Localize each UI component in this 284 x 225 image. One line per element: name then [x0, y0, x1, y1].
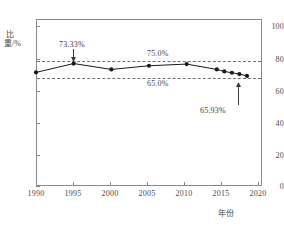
- data-point: [109, 67, 113, 71]
- data-point: [215, 67, 219, 71]
- annotation-last-label: 65.93%: [200, 107, 226, 115]
- data-point: [147, 64, 151, 68]
- annotation-peak-label: 73.33%: [59, 41, 85, 49]
- line-chart: 比重/% 100 80 60 40 20 0 1990 1995 2000 20…: [0, 0, 284, 225]
- annotation-peak-arrow-icon: [69, 49, 78, 63]
- data-point: [185, 62, 189, 66]
- data-series: [0, 0, 284, 225]
- data-point: [222, 69, 226, 73]
- data-point: [230, 71, 234, 75]
- series-markers: [34, 61, 249, 78]
- data-point: [237, 72, 241, 76]
- data-point: [245, 74, 249, 78]
- annotation-last-arrow-icon: [234, 81, 243, 105]
- data-point: [34, 70, 38, 74]
